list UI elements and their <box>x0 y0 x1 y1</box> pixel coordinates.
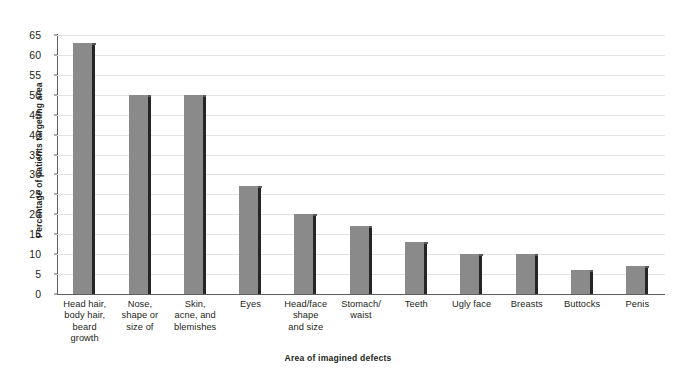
bar-top-edge <box>590 270 594 272</box>
bar-group <box>516 35 539 294</box>
y-axis-tick-label: 5 <box>15 269 41 280</box>
bar <box>184 95 206 294</box>
y-axis-tick-label: 55 <box>15 70 41 81</box>
bar-group <box>73 35 96 294</box>
y-axis-tick-label: 30 <box>15 169 41 180</box>
bar-top-edge <box>258 186 262 188</box>
y-axis-tick-label: 45 <box>15 109 41 120</box>
bar <box>626 266 648 294</box>
bar-top-edge <box>369 226 373 228</box>
bar <box>460 254 482 294</box>
x-axis-tick-label: Skin,acne, andblemishes <box>168 299 223 333</box>
bars-layer <box>57 35 665 294</box>
bar-group <box>239 35 262 294</box>
bar-group <box>460 35 483 294</box>
y-axis-tick-label: 15 <box>15 229 41 240</box>
bar <box>129 95 151 294</box>
y-axis-tick-label: 0 <box>15 289 41 300</box>
x-axis-tick-label: Eyes <box>223 299 278 310</box>
x-axis-tick-label: Nose,shape orsize of <box>112 299 167 333</box>
bar-top-edge <box>203 95 207 97</box>
bar-top-edge <box>313 214 317 216</box>
bar-top-edge <box>479 254 483 256</box>
x-axis-tick-label: Breasts <box>499 299 554 310</box>
bar <box>571 270 593 294</box>
bar-group <box>626 35 649 294</box>
bar-top-edge <box>645 266 649 268</box>
bar-group <box>405 35 428 294</box>
bar-top-edge <box>424 242 428 244</box>
bar-top-edge <box>535 254 539 256</box>
bar <box>73 43 95 294</box>
bar <box>350 226 372 294</box>
y-axis-tick-label: 25 <box>15 189 41 200</box>
x-axis-tick-label: Stomach/waist <box>333 299 388 322</box>
bar <box>294 214 316 294</box>
bar-chart: Percentage of patients targeting area 05… <box>0 0 676 376</box>
bar-top-edge <box>92 43 96 45</box>
x-axis-tick-label: Teeth <box>389 299 444 310</box>
y-axis-tick-label: 10 <box>15 249 41 260</box>
bar <box>239 186 261 294</box>
bar <box>405 242 427 294</box>
y-axis-tick-label: 35 <box>15 149 41 160</box>
bar-group <box>184 35 207 294</box>
x-axis-tick-label: Head hair,body hair,beardgrowth <box>57 299 112 345</box>
bar-group <box>129 35 152 294</box>
y-axis-tick-label: 65 <box>15 30 41 41</box>
bar-group <box>571 35 594 294</box>
bar-top-edge <box>148 95 152 97</box>
y-axis-tick-label: 20 <box>15 209 41 220</box>
bar-group <box>294 35 317 294</box>
x-axis-title: Area of imagined defects <box>0 353 676 363</box>
x-axis-tick-label: Penis <box>610 299 665 310</box>
x-axis-tick-label: Buttocks <box>554 299 609 310</box>
x-axis-tick-label: Head/faceshapeand size <box>278 299 333 333</box>
y-axis-tick-label: 60 <box>15 50 41 61</box>
bar-group <box>350 35 373 294</box>
plot-area: 05101520253035404550556065 <box>57 35 665 294</box>
x-axis-tick-label: Ugly face <box>444 299 499 310</box>
bar <box>516 254 538 294</box>
y-axis-tick-label: 40 <box>15 129 41 140</box>
y-axis-tick-label: 50 <box>15 90 41 101</box>
